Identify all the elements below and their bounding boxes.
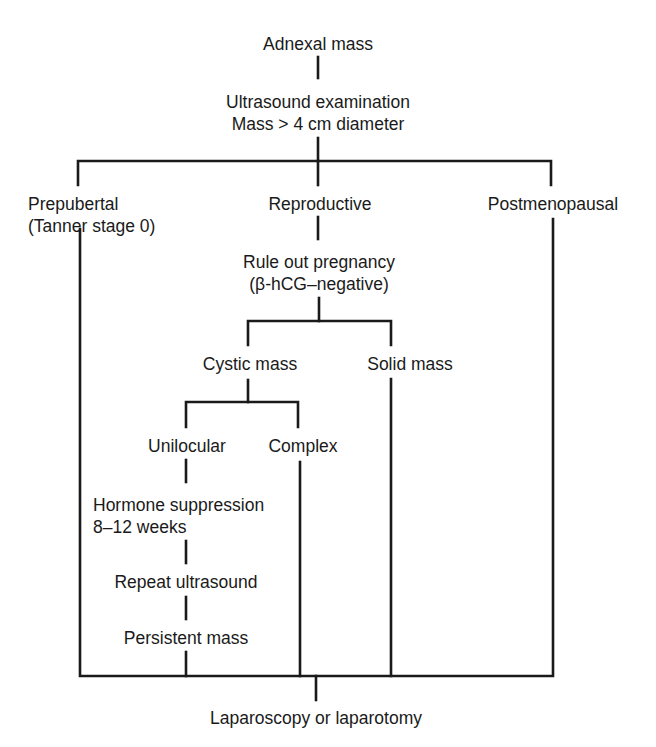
connector-cystic-solid-bar bbox=[248, 321, 391, 345]
connector-age-branch-bar bbox=[78, 161, 551, 185]
node-repeat-ultrasound: Repeat ultrasound bbox=[114, 571, 257, 593]
node-postmenopausal: Postmenopausal bbox=[488, 193, 618, 215]
node-label: Rule out pregnancy bbox=[243, 251, 395, 273]
node-label: Solid mass bbox=[367, 353, 453, 375]
node-label: Cystic mass bbox=[203, 353, 297, 375]
node-complex: Complex bbox=[268, 435, 337, 457]
node-label: Hormone suppression bbox=[93, 494, 264, 516]
node-ultrasound-examination: Ultrasound examination Mass > 4 cm diame… bbox=[226, 91, 410, 135]
node-label: Laparoscopy or laparotomy bbox=[210, 707, 422, 729]
node-label: (Tanner stage 0) bbox=[28, 215, 155, 237]
flowchart-canvas: Adnexal mass Ultrasound examination Mass… bbox=[0, 0, 656, 747]
node-rule-out-pregnancy: Rule out pregnancy (β-hCG–negative) bbox=[243, 251, 395, 295]
connector-unilocular-complex-bar bbox=[186, 402, 298, 427]
node-label: Complex bbox=[268, 435, 337, 457]
node-label: Ultrasound examination bbox=[226, 91, 410, 113]
node-reproductive: Reproductive bbox=[268, 193, 371, 215]
node-hormone-suppression: Hormone suppression 8–12 weeks bbox=[93, 494, 264, 538]
node-laparoscopy-or-laparotomy: Laparoscopy or laparotomy bbox=[210, 707, 422, 729]
node-persistent-mass: Persistent mass bbox=[124, 627, 248, 649]
node-solid-mass: Solid mass bbox=[367, 353, 453, 375]
node-label: Prepubertal bbox=[28, 193, 155, 215]
node-cystic-mass: Cystic mass bbox=[203, 353, 297, 375]
node-label: Unilocular bbox=[148, 435, 226, 457]
node-label: Postmenopausal bbox=[488, 193, 618, 215]
node-label: Reproductive bbox=[268, 193, 371, 215]
node-label: Mass > 4 cm diameter bbox=[226, 113, 410, 135]
node-prepubertal: Prepubertal (Tanner stage 0) bbox=[28, 193, 155, 237]
node-label: Repeat ultrasound bbox=[114, 571, 257, 593]
node-unilocular: Unilocular bbox=[148, 435, 226, 457]
node-label: Persistent mass bbox=[124, 627, 248, 649]
node-label: (β-hCG–negative) bbox=[243, 273, 395, 295]
node-label: Adnexal mass bbox=[263, 33, 373, 55]
node-adnexal-mass: Adnexal mass bbox=[263, 33, 373, 55]
node-label: 8–12 weeks bbox=[93, 516, 264, 538]
